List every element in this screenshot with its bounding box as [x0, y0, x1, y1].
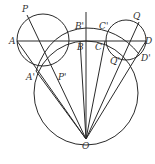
right-circle	[106, 20, 146, 60]
label-C: C	[95, 42, 102, 52]
line-OB	[80, 41, 86, 139]
label-A-prime: A'	[25, 72, 35, 82]
label-D: D	[144, 36, 152, 46]
line-OP	[27, 15, 86, 139]
line-OQ	[86, 22, 139, 139]
label-A: A	[8, 36, 16, 46]
label-C-prime: C'	[99, 21, 108, 31]
label-P: P	[21, 4, 29, 14]
label-D-prime: D'	[140, 53, 151, 63]
label-Q: Q	[133, 11, 141, 21]
left-circle	[17, 14, 69, 66]
geometry-diagram: P A A' P' B' B C' C Q D D' Q' O	[0, 0, 155, 164]
label-P-prime: P'	[57, 72, 67, 82]
label-B-prime: B'	[74, 21, 84, 31]
label-O: O	[82, 141, 90, 151]
label-Q-prime: Q'	[110, 56, 120, 66]
label-B: B	[76, 42, 84, 52]
